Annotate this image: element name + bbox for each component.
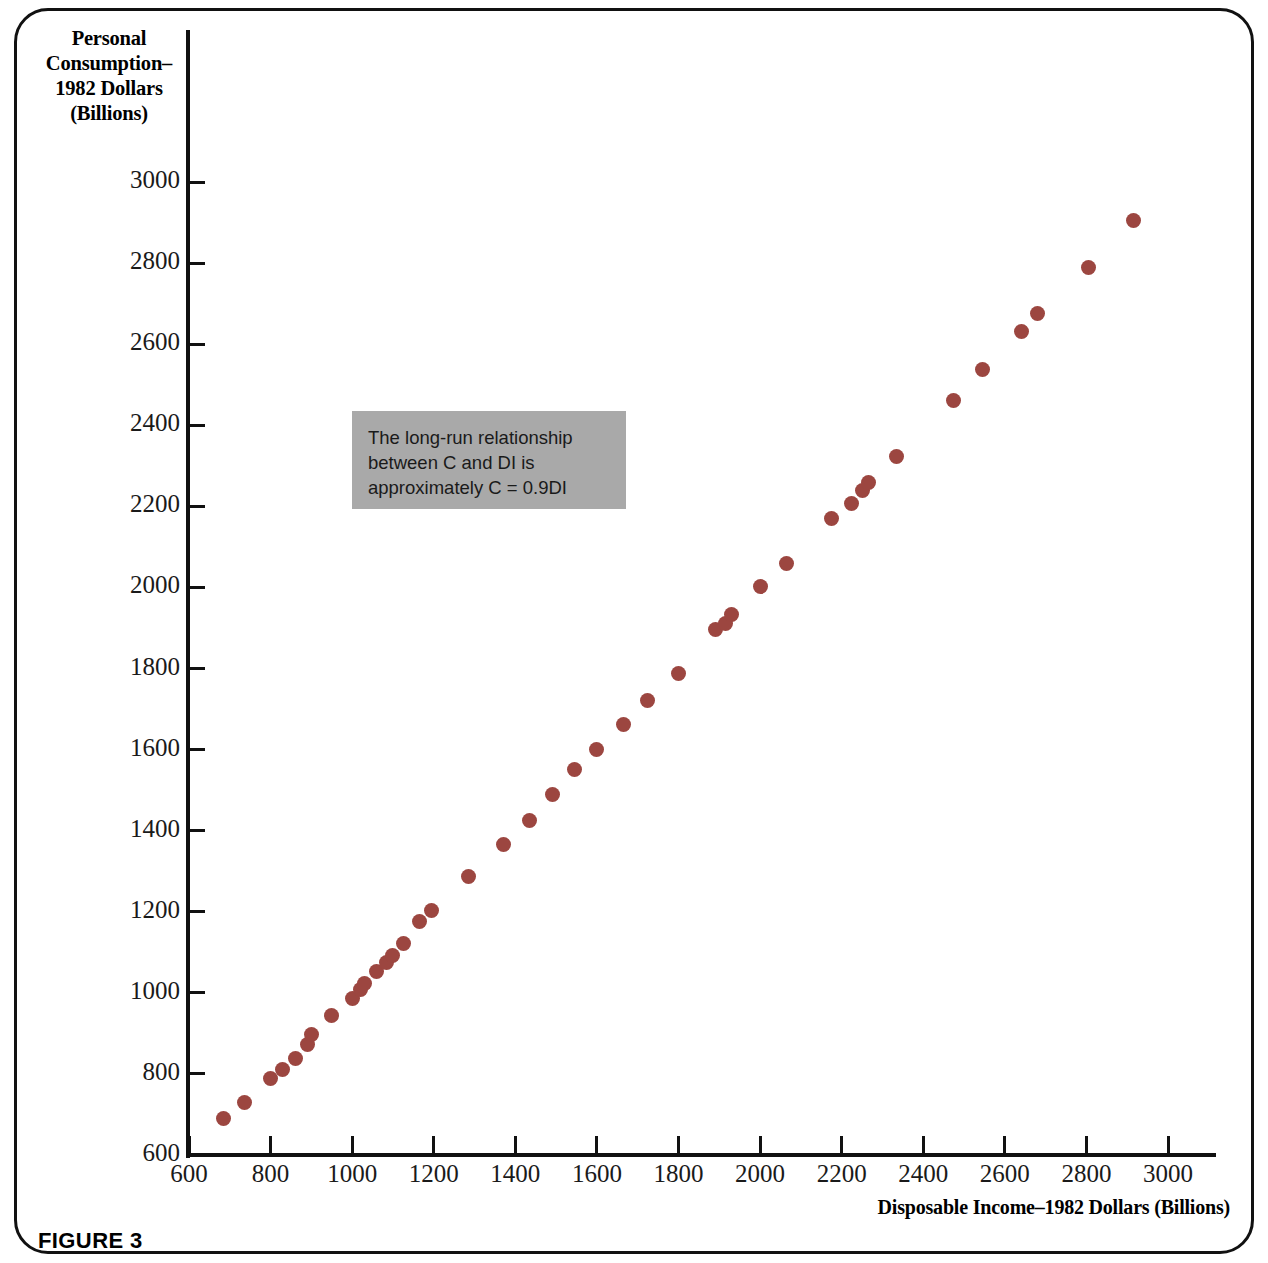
data-point <box>861 475 876 490</box>
y-axis-tick-label: 2600 <box>88 328 180 356</box>
x-axis-tick-label: 2200 <box>797 1160 887 1188</box>
annotation-text: The long-run relationship between C and … <box>368 425 610 500</box>
data-point <box>753 579 768 594</box>
x-axis-tick <box>1085 1136 1088 1153</box>
data-point <box>237 1095 252 1110</box>
data-point <box>424 903 439 918</box>
data-point <box>545 787 560 802</box>
y-axis-tick-label: 2800 <box>88 247 180 275</box>
x-axis-tick <box>1003 1136 1006 1153</box>
data-point <box>275 1062 290 1077</box>
data-point <box>1126 213 1141 228</box>
x-axis-tick-label: 1000 <box>307 1160 397 1188</box>
data-point <box>1014 324 1029 339</box>
data-point <box>616 717 631 732</box>
y-axis-tick <box>190 1154 205 1157</box>
x-axis-tick-label: 2000 <box>715 1160 805 1188</box>
y-axis-tick <box>190 181 205 184</box>
y-axis-tick <box>190 748 205 751</box>
data-point <box>288 1051 303 1066</box>
data-point <box>975 362 990 377</box>
data-point <box>824 511 839 526</box>
y-axis-title-line: 1982 Dollars <box>36 76 182 101</box>
y-axis-tick-label: 3000 <box>88 166 180 194</box>
data-point <box>671 666 686 681</box>
y-axis-tick <box>190 1072 205 1075</box>
x-axis-tick-label: 1800 <box>634 1160 724 1188</box>
scatter-chart: PersonalConsumption–1982 Dollars(Billion… <box>0 0 1268 1263</box>
y-axis-title: PersonalConsumption–1982 Dollars(Billion… <box>36 26 182 126</box>
y-axis-tick-label: 2400 <box>88 409 180 437</box>
y-axis-tick <box>190 910 205 913</box>
figure-caption: FIGURE 3 <box>38 1228 143 1254</box>
data-point <box>412 914 427 929</box>
data-point <box>779 556 794 571</box>
x-axis-tick-label: 2800 <box>1041 1160 1131 1188</box>
data-point <box>589 742 604 757</box>
x-axis-tick <box>922 1136 925 1153</box>
y-axis-title-line: (Billions) <box>36 101 182 126</box>
y-axis-line <box>186 30 190 1158</box>
y-axis-tick <box>190 424 205 427</box>
x-axis-tick-label: 800 <box>226 1160 316 1188</box>
data-point <box>396 936 411 951</box>
x-axis-tick-label: 600 <box>144 1160 234 1188</box>
y-axis-tick <box>190 505 205 508</box>
data-point <box>844 496 859 511</box>
data-point <box>522 813 537 828</box>
x-axis-tick <box>514 1136 517 1153</box>
y-axis-tick-label: 1200 <box>88 896 180 924</box>
x-axis-tick <box>432 1136 435 1153</box>
x-axis-title: Disposable Income–1982 Dollars (Billions… <box>640 1196 1230 1219</box>
x-axis-line <box>186 1153 1216 1157</box>
x-axis-tick <box>188 1136 191 1153</box>
data-point <box>1081 260 1096 275</box>
x-axis-tick <box>759 1136 762 1153</box>
data-point <box>946 393 961 408</box>
x-axis-tick-label: 2600 <box>960 1160 1050 1188</box>
data-point <box>385 948 400 963</box>
data-point <box>724 607 739 622</box>
x-axis-tick <box>351 1136 354 1153</box>
y-axis-tick <box>190 262 205 265</box>
y-axis-title-line: Personal <box>36 26 182 51</box>
y-axis-tick <box>190 991 205 994</box>
y-axis-tick-label: 1600 <box>88 734 180 762</box>
y-axis-title-line: Consumption– <box>36 51 182 76</box>
x-axis-tick-label: 1600 <box>552 1160 642 1188</box>
data-point <box>461 869 476 884</box>
data-point <box>324 1008 339 1023</box>
x-axis-tick-label: 2400 <box>878 1160 968 1188</box>
y-axis-tick <box>190 829 205 832</box>
x-axis-tick <box>840 1136 843 1153</box>
y-axis-tick-label: 2000 <box>88 571 180 599</box>
x-axis-tick <box>269 1136 272 1153</box>
annotation-callout: The long-run relationship between C and … <box>352 411 626 509</box>
x-axis-tick <box>595 1136 598 1153</box>
x-axis-tick <box>1167 1136 1170 1153</box>
x-axis-tick-label: 1400 <box>470 1160 560 1188</box>
y-axis-tick <box>190 667 205 670</box>
data-point <box>357 976 372 991</box>
y-axis-tick-label: 2200 <box>88 490 180 518</box>
data-point <box>567 762 582 777</box>
data-point <box>889 449 904 464</box>
y-axis-tick-label: 800 <box>88 1058 180 1086</box>
y-axis-tick <box>190 586 205 589</box>
y-axis-tick-label: 1000 <box>88 977 180 1005</box>
data-point <box>640 693 655 708</box>
y-axis-tick-label: 1400 <box>88 815 180 843</box>
y-axis-tick-label: 1800 <box>88 653 180 681</box>
data-point <box>304 1027 319 1042</box>
data-point <box>496 837 511 852</box>
x-axis-tick <box>677 1136 680 1153</box>
y-axis-tick <box>190 343 205 346</box>
data-point <box>216 1111 231 1126</box>
data-point <box>1030 306 1045 321</box>
x-axis-tick-label: 3000 <box>1123 1160 1213 1188</box>
x-axis-tick-label: 1200 <box>389 1160 479 1188</box>
